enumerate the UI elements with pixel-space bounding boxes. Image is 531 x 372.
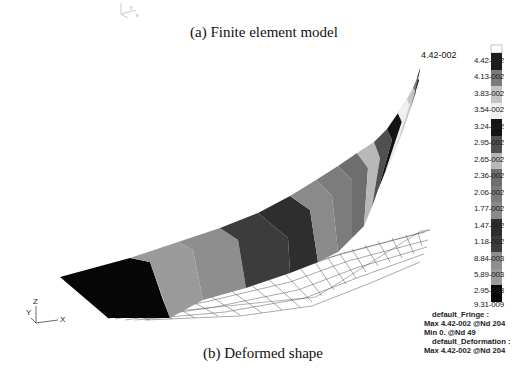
legend-value: 2.36-002 [460,171,504,180]
fringe-title: default_Fringe : [432,311,489,319]
legend-value: 8.84-003 [460,254,504,263]
legend-value: 2.95-003 [460,286,504,295]
fringe-color-bar [491,45,502,53]
top-axis-triad-icon [121,3,136,18]
peak-value-marker: 4.42-002 [421,50,457,60]
triad-z-label: Z [33,297,38,306]
triad-y-label: Y [26,308,31,317]
top-triad-y-label: y [130,4,133,10]
legend-value: 2.06-002 [460,188,504,197]
legend-value: 3.24-002 [460,122,504,131]
legend-value: 9.31-009 [460,300,504,309]
legend-value: 5.89-003 [460,270,504,279]
deformation-title: default_Deformation : [432,338,510,346]
legend-value: 1.77-002 [460,204,504,213]
fringe-max: Max 4.42-002 @Nd 204 [424,320,505,328]
legend-value: 2.95-002 [460,138,504,147]
legend-value: 3.54-002 [460,105,504,114]
triad-x-label: X [60,315,65,324]
legend-value: 4.13-002 [460,72,504,81]
legend-value: 1.18-002 [460,237,504,246]
deformed-surface [60,68,420,318]
legend-value: 1.47-002 [460,221,504,230]
legend-value: 3.83-002 [460,89,504,98]
fringe-min: Min 0. @Nd 49 [424,329,476,337]
legend-value: 4.42-002 [460,56,504,65]
legend-value: 2.65-002 [460,155,504,164]
bottom-axis-triad-icon [31,306,58,323]
top-triad-x-label: x [136,12,139,18]
deformation-max: Max 4.42-002 @Nd 204 [424,347,505,355]
